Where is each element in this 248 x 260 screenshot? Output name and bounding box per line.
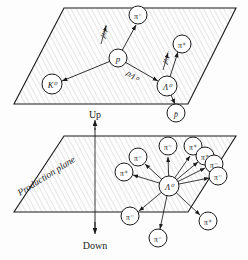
pion-label: π⁻ (134, 154, 142, 163)
up-label: Up (89, 109, 101, 120)
pion-label: π⁻ (214, 173, 222, 182)
pion-bubble: π⁺ (199, 212, 217, 230)
pion-bubble: π⁻ (159, 137, 177, 155)
figure-canvas: pπ⁺ pΛ⁰ pπ⁻ π⁻ π⁺ p K⁰ Λ (0, 0, 248, 260)
pion-bubble: π⁻ (121, 207, 139, 225)
pion-bubble: π⁺ (115, 163, 133, 181)
particle-kaon-zero: K⁰ (42, 74, 62, 94)
down-label: Down (83, 240, 107, 251)
vertex-lambda-zero: Λ⁰ (159, 176, 179, 196)
particle-label: p (115, 54, 121, 64)
pion-bubble: π⁻ (209, 167, 227, 185)
particle-pi-top: π⁻ (129, 6, 147, 24)
pion-label: π⁻ (126, 213, 134, 222)
pion-label: π⁻ (154, 235, 162, 244)
pion-label: π⁺ (204, 218, 212, 227)
pion-bubble: π⁻ (149, 229, 167, 247)
pion-label: π⁻ (164, 143, 172, 152)
pion-label: π⁺ (189, 143, 197, 152)
particle-label: p̄ (173, 110, 178, 119)
particle-proton-center: p (109, 49, 127, 67)
particle-label: π⁺ (178, 41, 186, 50)
particle-label: π⁻ (134, 12, 142, 21)
particle-antiproton: p̄ (167, 104, 185, 122)
pion-label: π⁺ (120, 169, 128, 178)
particle-lambda-zero: Λ⁰ (157, 76, 177, 96)
pion-bubble: π⁻ (129, 148, 147, 166)
particle-pi-right: π⁺ (173, 35, 191, 53)
particle-decay-figure: pπ⁺ pΛ⁰ pπ⁻ π⁻ π⁺ p K⁰ Λ (0, 0, 248, 260)
